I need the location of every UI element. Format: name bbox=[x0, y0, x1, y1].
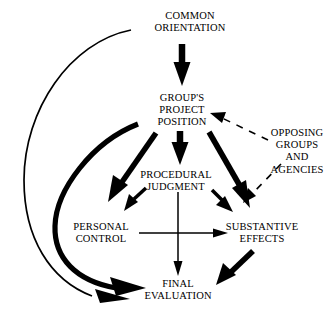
arrow-groups-project-position-to-final-evaluation bbox=[55, 124, 146, 296]
node-label-line: POSITION bbox=[157, 116, 206, 128]
arrow-procedural-judgment-to-substantive-effects bbox=[212, 190, 233, 212]
arrow-procedural-judgment-to-final-evaluation bbox=[174, 192, 183, 276]
node-label-line: SUBSTANTIVE bbox=[226, 221, 299, 233]
node-substantive-effects: SUBSTANTIVE EFFECTS bbox=[226, 221, 299, 245]
node-label-line: CONTROL bbox=[73, 233, 128, 245]
node-label-line: OPPOSING bbox=[270, 127, 323, 139]
node-label-line: FINAL bbox=[144, 278, 211, 290]
arrow-common-orientation-to-final-evaluation bbox=[24, 30, 131, 303]
node-opposing-groups-and-agencies: OPPOSING GROUPS AND AGENCIES bbox=[270, 127, 323, 176]
arrow-groups-project-position-to-procedural-judgment bbox=[172, 131, 189, 165]
diagram-canvas: COMMON ORIENTATION GROUP'S PROJECT POSIT… bbox=[0, 0, 336, 316]
node-label-line: AGENCIES bbox=[270, 163, 323, 175]
node-label-line: PERSONAL bbox=[73, 221, 128, 233]
node-label-line: AND bbox=[270, 151, 323, 163]
node-common-orientation: COMMON ORIENTATION bbox=[155, 10, 226, 34]
arrow-substantive-effects-to-final-evaluation bbox=[216, 251, 253, 285]
arrow-personal-control-to-substantive-effects bbox=[139, 229, 228, 238]
node-label-line: PROCEDURAL bbox=[140, 169, 212, 181]
arrow-opposing-groups-to-groups-project-position bbox=[210, 112, 268, 140]
node-label-line: PROJECT bbox=[157, 104, 206, 116]
node-label-line: EFFECTS bbox=[226, 233, 299, 245]
node-groups-project-position: GROUP'S PROJECT POSITION bbox=[157, 92, 206, 129]
node-procedural-judgment: PROCEDURAL JUDGMENT bbox=[140, 169, 212, 193]
node-personal-control: PERSONAL CONTROL bbox=[73, 221, 128, 245]
arrow-common-orientation-to-groups-project-position bbox=[174, 44, 191, 86]
node-label-line: GROUP'S bbox=[157, 92, 206, 104]
node-label-line: ORIENTATION bbox=[155, 22, 226, 34]
node-label-line: GROUPS bbox=[270, 139, 323, 151]
node-label-line: JUDGMENT bbox=[140, 181, 212, 193]
node-final-evaluation: FINAL EVALUATION bbox=[144, 278, 211, 302]
node-label-line: EVALUATION bbox=[144, 290, 211, 302]
arrow-groups-project-position-to-substantive-effects bbox=[209, 132, 250, 208]
node-label-line: COMMON bbox=[155, 10, 226, 22]
